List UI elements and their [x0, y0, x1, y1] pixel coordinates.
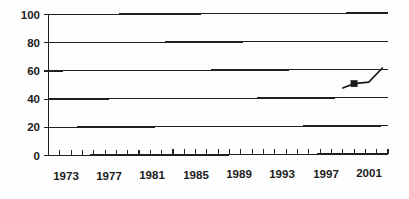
- series-marker-point: [351, 81, 357, 87]
- x-tick-label-1989: 1989: [226, 168, 252, 180]
- y-tick-label-100: 100: [21, 9, 40, 21]
- chart-figure: 100 80 60 40 20 0 1973 1977 1981 1985 19…: [0, 0, 409, 199]
- y-tick-label-60: 60: [27, 65, 40, 77]
- x-tick-label-1997: 1997: [313, 168, 339, 180]
- y-tick-label-80: 80: [27, 37, 40, 49]
- x-tick-label-1993: 1993: [269, 168, 295, 180]
- y-tick-label-20: 20: [27, 121, 40, 133]
- x-tick-label-1985: 1985: [183, 169, 209, 181]
- x-tick-label-2001: 2001: [356, 167, 382, 179]
- y-tick-label-0: 0: [34, 150, 40, 162]
- x-tick-label-1981: 1981: [139, 169, 165, 181]
- y-tick-label-40: 40: [27, 93, 40, 105]
- x-tick-label-1977: 1977: [96, 170, 122, 182]
- x-tick-label-1973: 1973: [53, 170, 79, 182]
- series-markers-1: [351, 81, 357, 87]
- chart-svg: 100 80 60 40 20 0 1973 1977 1981 1985 19…: [0, 0, 409, 199]
